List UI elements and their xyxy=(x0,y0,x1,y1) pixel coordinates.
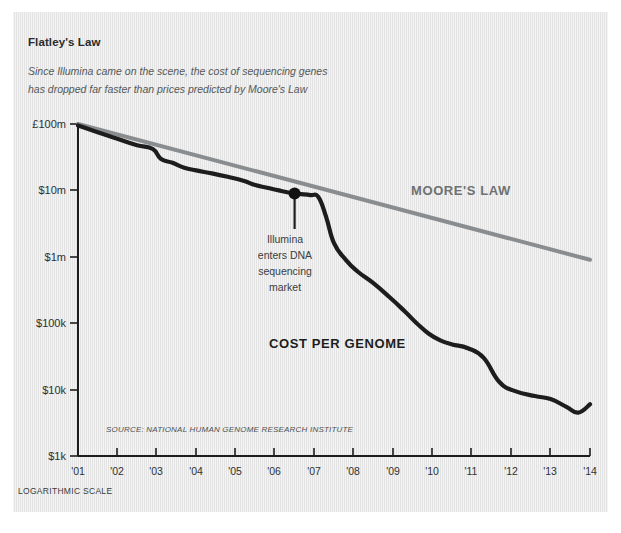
y-tick-label-10k: $10k xyxy=(42,384,66,396)
x-tick-label-01: '01 xyxy=(71,465,85,477)
plot-area: £100m $10m $1m $100k $10k $1k '01 '02 xyxy=(0,0,621,533)
series-line-cost-per-genome xyxy=(78,126,590,413)
x-tick-label-10: '10 xyxy=(425,465,439,477)
x-ticks: '01 '02 '03 '04 '05 '06 '07 '08 '09 '10 … xyxy=(71,448,597,477)
x-tick-label-05: '05 xyxy=(228,465,242,477)
annotation-line-1: Illumina xyxy=(267,233,303,245)
x-tick-label-03: '03 xyxy=(149,465,163,477)
x-tick-label-06: '06 xyxy=(267,465,281,477)
x-tick-label-07: '07 xyxy=(307,465,321,477)
x-tick-label-11: '11 xyxy=(465,465,478,477)
x-tick-label-08: '08 xyxy=(346,465,360,477)
y-tick-label-1k: $1k xyxy=(48,450,66,462)
annotation-line-3: sequencing xyxy=(258,265,312,277)
x-tick-label-02: '02 xyxy=(110,465,124,477)
annotation-marker-dot xyxy=(289,187,301,199)
x-tick-label-13: '13 xyxy=(543,465,557,477)
y-ticks: £100m $10m $1m $100k $10k $1k xyxy=(32,118,78,462)
annotation-illumina: Illumina enters DNA sequencing market xyxy=(258,187,312,293)
label-moores-law: MOORE'S LAW xyxy=(411,183,511,198)
y-tick-label-100k: $100k xyxy=(36,317,66,329)
chart-root: Flatley's Law Since Illumina came on the… xyxy=(0,0,621,533)
label-cost-per-genome: COST PER GENOME xyxy=(269,336,406,351)
x-tick-label-14: '14 xyxy=(583,465,597,477)
y-tick-label-1m: $1m xyxy=(45,251,66,263)
y-tick-label-100m: £100m xyxy=(32,118,66,130)
x-tick-label-04: '04 xyxy=(189,465,203,477)
x-tick-label-12: '12 xyxy=(504,465,518,477)
axes xyxy=(78,122,590,456)
annotation-line-2: enters DNA xyxy=(258,249,312,261)
x-tick-label-09: '09 xyxy=(386,465,400,477)
annotation-line-4: market xyxy=(269,281,301,293)
y-tick-label-10m: $10m xyxy=(38,184,66,196)
